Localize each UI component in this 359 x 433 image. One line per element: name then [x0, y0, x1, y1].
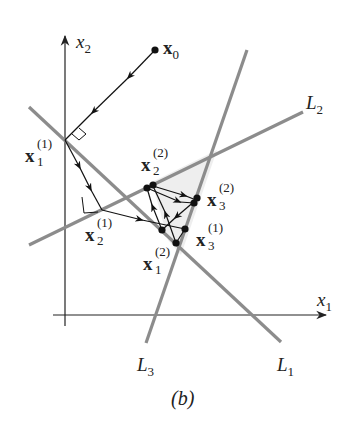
- figure-caption: (b): [171, 388, 194, 408]
- point-x3-1: [181, 225, 188, 232]
- point-x2-2b: [149, 181, 156, 188]
- point-x3-2b: [190, 199, 197, 206]
- label-x3-2: x(2)3: [207, 190, 217, 209]
- label-x1-1: x(1)1: [25, 146, 35, 165]
- label-x0: x0: [163, 38, 179, 61]
- label-L1: L1: [277, 355, 294, 378]
- label-x1-2: x(2)1: [143, 254, 153, 273]
- label-x2-2: x(2)2: [141, 155, 151, 174]
- projection-diagram: [0, 0, 359, 433]
- point-x1-2: [172, 239, 179, 246]
- point-x1-2a: [158, 226, 165, 233]
- label-x2-1: x(1)2: [85, 225, 95, 244]
- label-L2: L2: [306, 93, 323, 116]
- point-x0: [151, 46, 158, 53]
- label-L3: L3: [137, 355, 154, 378]
- label-x3-1: x(1)3: [196, 230, 206, 249]
- right-angle-marker: [72, 128, 86, 140]
- x1-axis-label: x1: [317, 290, 332, 313]
- x2-axis-label: x2: [76, 32, 91, 55]
